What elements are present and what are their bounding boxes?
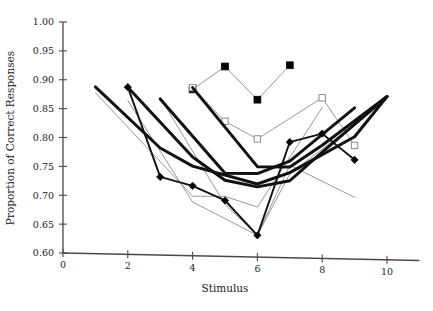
y-tick-label: 0.80 xyxy=(33,132,54,143)
data-point-marker xyxy=(254,96,261,103)
x-tick-label: 8 xyxy=(319,264,325,275)
y-tick-label: 0.90 xyxy=(33,74,54,85)
y-tick-label: 0.95 xyxy=(33,45,54,56)
x-tick-label: 10 xyxy=(381,266,393,277)
series-filled-square-series xyxy=(189,62,293,103)
data-point-marker xyxy=(286,62,293,69)
y-tick-label: 0.60 xyxy=(33,247,54,258)
chart-svg: 0.600.650.700.750.800.850.900.951.000246… xyxy=(0,0,433,311)
data-point-marker xyxy=(286,138,293,145)
x-tick-label: 4 xyxy=(190,262,196,273)
y-tick-label: 1.00 xyxy=(33,16,54,27)
data-point-marker xyxy=(189,182,196,189)
x-axis-title: Stimulus xyxy=(202,282,249,294)
y-tick-label: 0.85 xyxy=(33,103,54,114)
y-tick-label: 0.65 xyxy=(33,219,54,230)
y-axis-title: Proportion of Correct Responses xyxy=(4,51,16,225)
x-tick-label: 2 xyxy=(125,260,131,271)
series-line xyxy=(128,100,355,235)
x-tick-label: 6 xyxy=(254,263,260,274)
data-point-marker xyxy=(157,173,164,180)
series-thin-gray-v-deep xyxy=(128,100,355,235)
x-tick-label: 0 xyxy=(60,259,66,270)
data-point-marker xyxy=(222,63,229,70)
series-line xyxy=(193,88,387,167)
data-point-marker xyxy=(351,142,357,148)
data-point-marker xyxy=(319,95,325,101)
series-line xyxy=(193,65,290,99)
series-layer xyxy=(95,62,387,239)
chart-container: 0.600.650.700.750.800.850.900.951.000246… xyxy=(0,0,433,311)
series-thin-gray-v-left xyxy=(95,93,322,207)
y-tick-label: 0.75 xyxy=(33,161,54,172)
series-line xyxy=(95,93,322,207)
series-thick-curve-start-4 xyxy=(193,88,387,167)
y-tick-label: 0.70 xyxy=(33,190,54,201)
data-point-marker xyxy=(254,136,260,142)
